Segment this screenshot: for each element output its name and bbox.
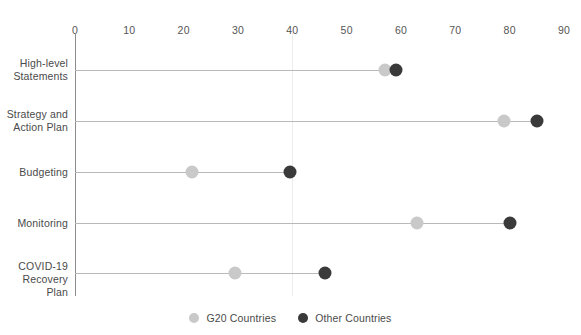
row-connector-line-0 [75, 70, 396, 71]
data-point-g20-1 [498, 115, 511, 128]
data-point-other-2 [283, 166, 296, 179]
data-point-g20-3 [411, 217, 424, 230]
data-point-other-1 [530, 115, 543, 128]
data-point-other-3 [503, 217, 516, 230]
row-connector-line-4 [75, 273, 325, 274]
category-axis-spine [75, 33, 76, 296]
data-point-other-0 [389, 64, 402, 77]
category-label-3: Monitoring [0, 217, 68, 230]
legend-item-g20-countries[interactable]: G20 Countries [189, 312, 276, 324]
x-axis-tick-50: 50 [341, 24, 353, 36]
legend-label-1: Other Countries [315, 312, 391, 324]
data-point-other-4 [318, 267, 331, 280]
row-connector-line-3 [75, 223, 510, 224]
x-axis-tick-60: 60 [395, 24, 407, 36]
data-point-g20-2 [185, 166, 198, 179]
category-label-1: Strategy and Action Plan [0, 108, 68, 134]
x-axis-tick-10: 10 [123, 24, 135, 36]
dumbbell-chart: 0102030405060708090 High-level Statement… [0, 0, 581, 335]
legend-swatch-icon-1 [298, 313, 308, 323]
legend-label-0: G20 Countries [206, 312, 276, 324]
category-label-4: COVID-19 Recovery Plan [0, 260, 68, 299]
x-axis-tick-20: 20 [178, 24, 190, 36]
x-axis-tick-90: 90 [558, 24, 570, 36]
legend-swatch-icon-0 [189, 313, 199, 323]
legend-item-other-countries[interactable]: Other Countries [298, 312, 391, 324]
category-label-0: High-level Statements [0, 57, 68, 83]
data-point-g20-4 [229, 267, 242, 280]
chart-legend: G20 CountriesOther Countries [0, 312, 581, 324]
vertical-gridline-40 [292, 33, 293, 296]
x-axis-tick-30: 30 [232, 24, 244, 36]
row-connector-line-2 [75, 172, 290, 173]
x-axis-tick-70: 70 [449, 24, 461, 36]
x-axis-tick-80: 80 [504, 24, 516, 36]
row-connector-line-1 [75, 121, 537, 122]
category-label-2: Budgeting [0, 166, 68, 179]
